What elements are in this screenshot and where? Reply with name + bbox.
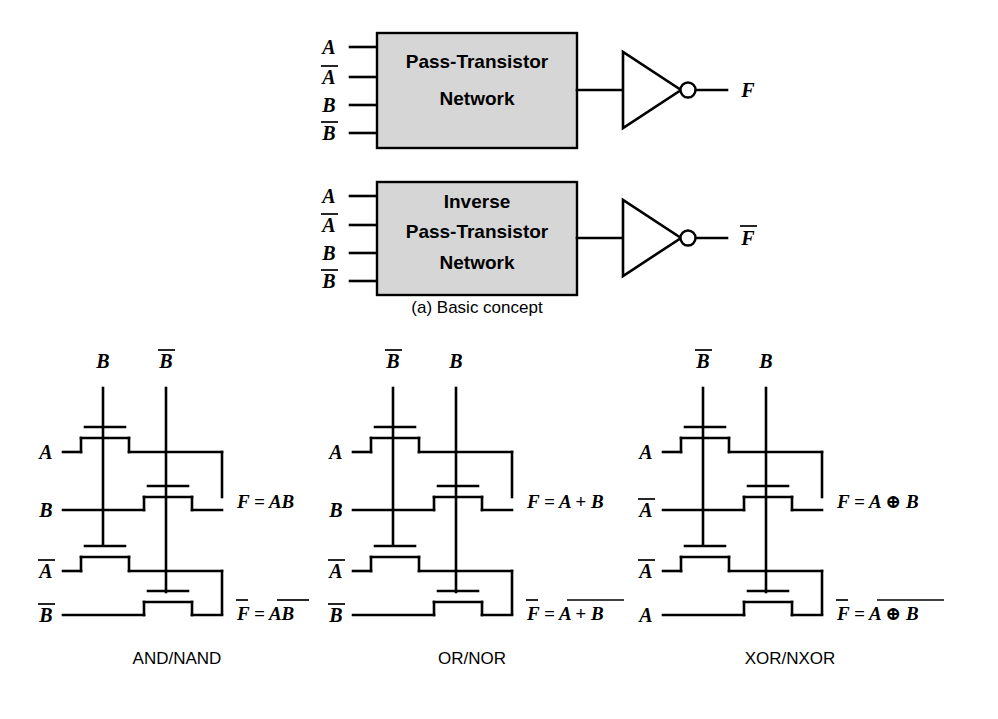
rail-label-right: B [158,350,172,372]
transistor-t4 [63,591,222,615]
output-equation-f-bar: F = A ⊕ B [836,600,944,624]
rail-label-right: B [758,350,772,372]
output-equation-f: F = AB [236,491,294,512]
block-diagram-pass-transistor-network: A A B B Pass-Transistor Network F [320,33,755,148]
transistor-t3 [663,546,822,614]
rail-label-left: B [695,350,709,372]
input-label-b-bar: B [321,122,335,144]
output-equation-f: F = A ⊕ B [836,491,919,512]
gate-input-label-4: B [38,604,52,626]
circuit-name-xor-nxor: XOR/NXOR [745,649,836,668]
transistor-t3 [353,546,512,614]
gate-input-label-1: A [327,441,342,463]
gate-input-label-1: A [637,441,652,463]
input-label-a: A [320,36,335,58]
output-equation-f-text: F = AB [236,491,294,512]
rail-label-left: B [385,350,399,372]
gate-input-label-2: A [637,499,652,521]
input-label-a-bar: A [320,214,335,236]
box-line-2: Network [440,88,515,109]
gate-input-label-4: A [637,604,652,626]
caption-a: (a) Basic concept [411,298,543,317]
box-line-2: Pass-Transistor [406,221,549,242]
output-equation-f-text: F = A ⊕ B [836,491,919,512]
output-equation-f: F = A + B [526,491,604,512]
gate-input-label-2: B [328,499,342,521]
rail-label-left: B [95,350,109,372]
input-label-b: B [321,242,335,264]
block-diagram-inverse-pass-transistor-network: A A B B Inverse Pass-Transistor Network … [320,182,757,295]
transistor-t4 [663,591,822,615]
output-equation-f-bar-text: F = A + B [526,603,604,624]
transistor-t2 [353,486,512,510]
rail-label-right: B [448,350,462,372]
gate-input-label-1: A [37,441,52,463]
circuit-xor-nxor: B B A A F = A ⊕ B [637,350,944,668]
inverter-gate [623,52,681,128]
box-line-1: Pass-Transistor [406,51,549,72]
inverter-bubble-icon [681,83,696,98]
gate-input-label-4: B [328,604,342,626]
output-equation-f-bar: F = A + B [526,600,624,624]
input-label-a: A [320,185,335,207]
circuit-name-and-nand: AND/NAND [133,649,222,668]
box-line-3: Network [440,252,515,273]
transistor-t4 [353,591,512,615]
output-equation-f-bar-text: F = A ⊕ B [836,603,919,624]
transistor-t1 [353,427,512,497]
circuit-or-nor: B B A B F = A + B [327,350,624,668]
gate-input-label-3: A [37,560,52,582]
inverter-bubble-icon [681,231,696,246]
gate-input-label-2: B [38,499,52,521]
transistor-t2 [63,486,222,510]
output-label-f: F [740,79,755,101]
transistor-t1 [63,427,222,497]
circuit-name-or-nor: OR/NOR [438,649,506,668]
inverter-gate [623,200,681,276]
box-line-1: Inverse [444,191,511,212]
input-label-b: B [321,94,335,116]
input-label-a-bar: A [320,66,335,88]
transistor-t3 [63,546,222,614]
transistor-t1 [663,427,822,497]
output-equation-f-text: F = A + B [526,491,604,512]
gate-input-label-3: A [327,560,342,582]
output-label-f-bar: F [740,227,755,249]
gate-input-label-3: A [637,560,652,582]
circuit-and-nand: B B A B F = AB [37,350,309,668]
output-equation-f-bar: F = AB [236,600,309,624]
transistor-t2 [663,486,822,510]
figure-root: A A B B Pass-Transistor Network F A A B … [0,0,998,719]
output-equation-f-bar-text: F = AB [236,603,294,624]
input-label-b-bar: B [321,270,335,292]
